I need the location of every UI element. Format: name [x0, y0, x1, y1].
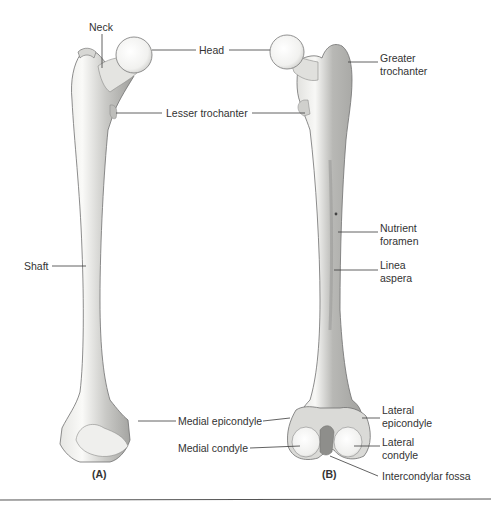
label-medial-epicondyle: Medial epicondyle: [178, 415, 262, 428]
label-lesser-trochanter: Lesser trochanter: [166, 107, 248, 120]
femur-b-linea-aspera: [330, 160, 332, 330]
femur-b-intercondylar-fossa: [320, 426, 334, 455]
label-nutrient-foramen: Nutrient foramen: [380, 222, 419, 247]
femur-posterior-view: [270, 35, 370, 460]
label-linea-aspera: Linea aspera: [380, 259, 412, 284]
femur-b-lateral-condyle: [334, 427, 362, 457]
label-intercondylar-fossa: Intercondylar fossa: [382, 470, 471, 483]
label-lateral-condyle: Lateral condyle: [382, 436, 418, 461]
panel-label-a: (A): [92, 468, 107, 480]
femur-anterior-view: [60, 37, 152, 462]
label-neck: Neck: [89, 21, 113, 34]
femur-b-lesser-trochanter: [298, 100, 310, 116]
femur-b-medial-condyle: [292, 427, 320, 457]
femur-a-head: [116, 37, 152, 73]
label-head: Head: [199, 44, 224, 57]
panel-label-b: (B): [322, 468, 337, 480]
label-greater-trochanter: Greater trochanter: [380, 52, 427, 77]
femur-a-body: [60, 49, 134, 462]
femur-b-nutrient-foramen: [335, 213, 338, 216]
bottom-rule: [0, 499, 491, 500]
label-medial-condyle: Medial condyle: [178, 442, 248, 455]
label-lateral-epicondyle: Lateral epicondyle: [382, 404, 432, 429]
leader-medial-epicondyle-b: [263, 418, 290, 421]
femur-b-head: [270, 35, 304, 69]
label-shaft: Shaft: [24, 260, 49, 273]
